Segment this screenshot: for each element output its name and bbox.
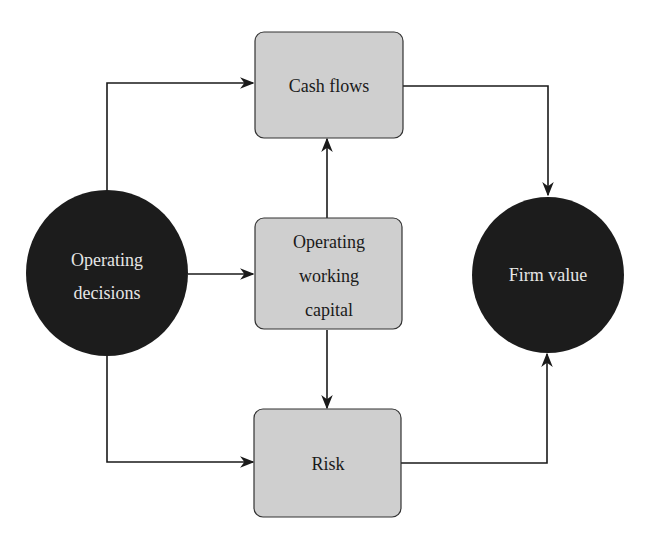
- node-label-line: Risk: [311, 454, 344, 474]
- node-operating-working-capital: Operating working capital: [255, 218, 402, 329]
- node-cash-flows: Cash flows: [255, 32, 403, 138]
- node-risk: Risk: [254, 409, 401, 517]
- edge-decisions-to-cash-flows: [107, 83, 253, 190]
- node-label-line: Cash flows: [289, 76, 370, 96]
- node-label-line: capital: [305, 300, 353, 320]
- node-label-line: Operating: [293, 232, 365, 252]
- edge-risk-to-firm-value: [401, 354, 547, 463]
- node-label-line: working: [299, 266, 359, 286]
- edge-decisions-to-risk: [107, 356, 253, 462]
- node-label-line: decisions: [74, 283, 141, 303]
- edge-cash-flows-to-firm-value: [403, 86, 548, 195]
- node-label-line: Firm value: [509, 265, 588, 285]
- flow-diagram: Operating decisions Cash flows Operating…: [0, 0, 651, 539]
- node-firm-value: Firm value: [472, 197, 624, 353]
- node-label-line: Operating: [71, 250, 143, 270]
- node-operating-decisions: Operating decisions: [26, 190, 188, 356]
